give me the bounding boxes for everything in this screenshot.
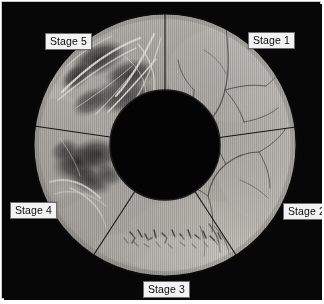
plate-frame: Stage 5 Stage 1 Stage 4 Stage 2 Stage 3 [1,1,321,299]
stage-label-stage3: Stage 3 [143,281,190,298]
stage-label-stage1: Stage 1 [248,32,295,49]
stage-label-stage5: Stage 5 [45,33,92,50]
stage-label-stage4: Stage 4 [10,202,57,219]
plate-background: Stage 5 Stage 1 Stage 4 Stage 2 Stage 3 [4,4,322,300]
figure-root: Stage 5 Stage 1 Stage 4 Stage 2 Stage 3 [0,0,324,304]
stage-label-stage2: Stage 2 [283,203,322,220]
